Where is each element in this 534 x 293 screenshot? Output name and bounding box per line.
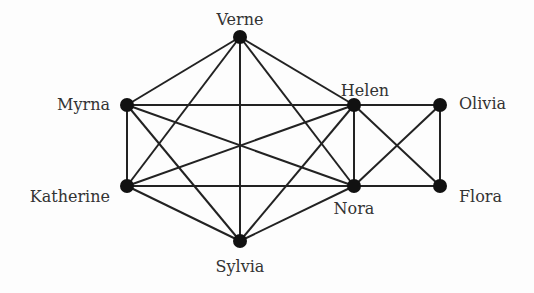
node-label-verne: Verne bbox=[216, 10, 264, 29]
edge-verne-myrna bbox=[127, 37, 240, 105]
node-helen bbox=[347, 98, 361, 112]
edge-verne-helen bbox=[240, 37, 354, 105]
edges-group bbox=[127, 37, 440, 241]
node-sylvia bbox=[233, 234, 247, 248]
node-flora bbox=[433, 179, 447, 193]
node-katherine bbox=[120, 179, 134, 193]
node-label-olivia: Olivia bbox=[459, 94, 507, 113]
graph-diagram: VerneMyrnaHelenOliviaKatherineNoraFloraS… bbox=[0, 0, 534, 293]
node-label-helen: Helen bbox=[341, 81, 389, 100]
node-label-katherine: Katherine bbox=[30, 187, 110, 206]
node-label-myrna: Myrna bbox=[57, 95, 110, 114]
node-verne bbox=[233, 30, 247, 44]
graph-svg: VerneMyrnaHelenOliviaKatherineNoraFloraS… bbox=[0, 0, 534, 293]
node-label-flora: Flora bbox=[459, 187, 503, 206]
node-nora bbox=[347, 179, 361, 193]
labels-group: VerneMyrnaHelenOliviaKatherineNoraFloraS… bbox=[30, 10, 507, 276]
node-label-nora: Nora bbox=[334, 199, 375, 218]
node-olivia bbox=[433, 98, 447, 112]
edge-katherine-sylvia bbox=[127, 186, 240, 241]
node-label-sylvia: Sylvia bbox=[216, 257, 265, 276]
node-myrna bbox=[120, 98, 134, 112]
